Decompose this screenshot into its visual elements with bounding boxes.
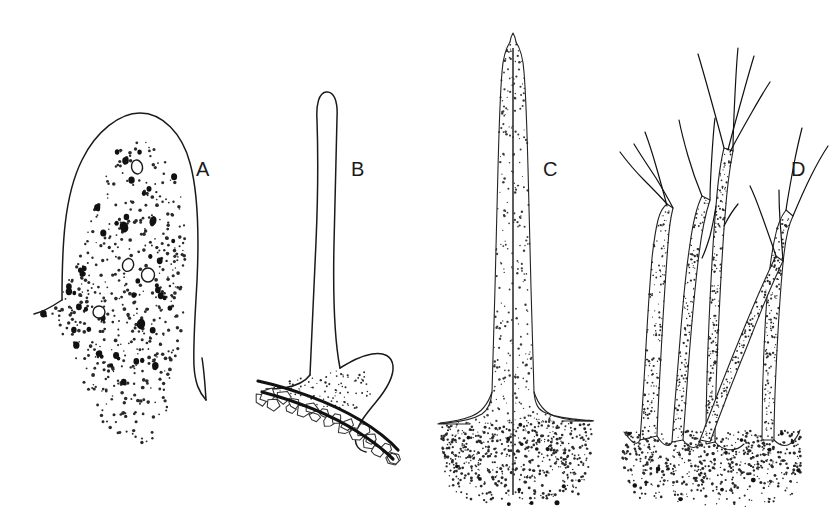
figure-label-a: A <box>196 158 210 180</box>
vesicle <box>142 268 155 282</box>
figure-label-b: B <box>351 158 364 180</box>
plate-canvas: ABCD <box>0 0 833 526</box>
vesicle <box>93 306 105 318</box>
figure-label-c: C <box>543 158 557 180</box>
illustration-plate: ABCD <box>0 0 833 526</box>
figure-label-d: D <box>791 158 805 180</box>
